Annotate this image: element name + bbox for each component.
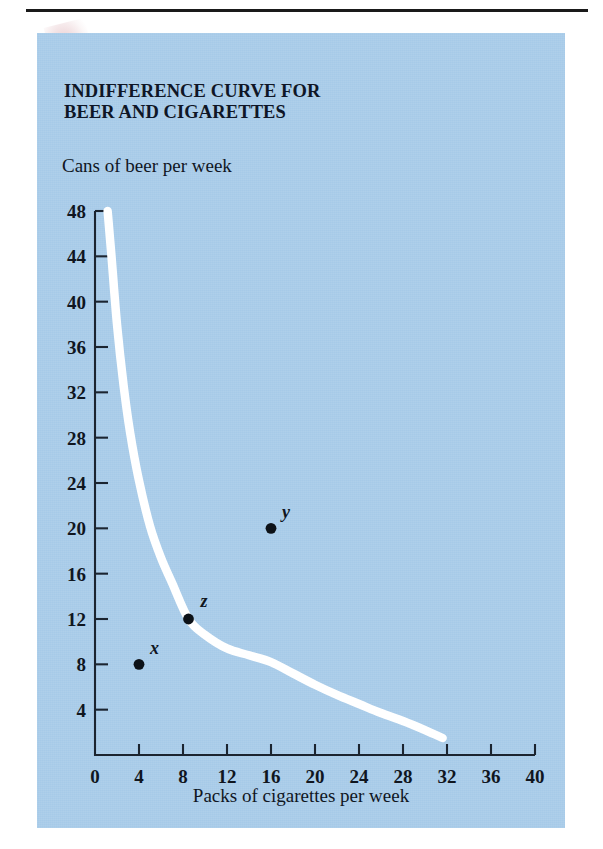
- y-tick-label: 28: [67, 428, 86, 449]
- page-top-rule: [26, 9, 588, 12]
- x-tick-label: 36: [482, 766, 501, 787]
- x-tick-label: 24: [350, 766, 370, 787]
- y-tick-label: 12: [67, 609, 86, 630]
- chart-title: INDIFFERENCE CURVE FOR BEER AND CIGARETT…: [64, 81, 484, 123]
- x-axis-ticks: 0481216202428323640: [90, 744, 544, 787]
- curve-line: [108, 211, 443, 738]
- x-tick-label: 8: [178, 766, 188, 787]
- y-tick-label: 48: [67, 201, 86, 222]
- y-axis-ticks: 4812162024283236404448: [67, 201, 108, 721]
- data-point-label-x: x: [149, 638, 159, 658]
- x-axis-title: Packs of cigarettes per week: [37, 785, 565, 807]
- y-tick-label: 20: [67, 518, 86, 539]
- y-tick-label: 8: [77, 654, 87, 675]
- y-tick-label: 4: [77, 700, 87, 721]
- y-tick-label: 44: [67, 246, 87, 267]
- figure-panel: INDIFFERENCE CURVE FOR BEER AND CIGARETT…: [37, 33, 565, 828]
- x-tick-label: 4: [134, 766, 144, 787]
- plot-area: 0481216202428323640 48121620242832364044…: [37, 33, 565, 828]
- y-axis-title: Cans of beer per week: [62, 155, 232, 177]
- x-tick-label: 12: [218, 766, 237, 787]
- x-tick-label: 16: [262, 766, 281, 787]
- y-tick-label: 24: [67, 473, 87, 494]
- x-tick-label: 28: [394, 766, 413, 787]
- y-tick-label: 36: [67, 337, 86, 358]
- data-point-y: [266, 523, 277, 534]
- data-point-label-z: z: [200, 591, 208, 611]
- data-point-label-y: y: [280, 502, 291, 522]
- data-point-z: [183, 614, 194, 625]
- y-tick-label: 16: [67, 564, 86, 585]
- axis-lines: [95, 211, 535, 755]
- data-point-x: [134, 659, 145, 670]
- y-tick-label: 40: [67, 292, 86, 313]
- indifference-curve: [108, 211, 443, 738]
- y-tick-label: 32: [67, 382, 86, 403]
- x-tick-label: 0: [90, 766, 100, 787]
- x-tick-label: 32: [438, 766, 457, 787]
- x-tick-label: 20: [306, 766, 325, 787]
- x-tick-label: 40: [526, 766, 545, 787]
